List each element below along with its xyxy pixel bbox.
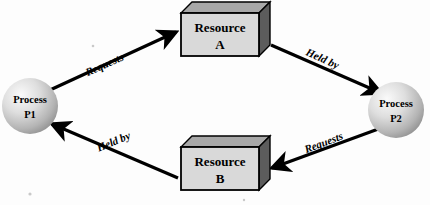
node-resource-a[interactable]: Resource A xyxy=(181,2,270,56)
process-p1-sphere xyxy=(2,78,58,134)
process-p1-label-line2: P1 xyxy=(24,109,36,120)
speck xyxy=(92,45,95,48)
edge-p2-requests-resource-b[interactable]: Requests xyxy=(272,128,381,168)
node-resource-b[interactable]: Resource B xyxy=(181,136,270,190)
resource-b-label-line1: Resource xyxy=(194,154,245,169)
edge-resource-a-heldby-p2[interactable]: Held by xyxy=(271,45,381,93)
resource-b-top-face xyxy=(181,136,270,147)
edge-line xyxy=(52,124,178,178)
resource-b-label-line2: B xyxy=(216,171,225,186)
edge-p1-requests-resource-a[interactable]: Requests xyxy=(50,32,176,90)
process-p1-label-line1: Process xyxy=(13,94,47,105)
deadlock-diagram-canvas: Requests Held by Requests Held by Resour… xyxy=(0,0,430,205)
speck xyxy=(28,192,31,195)
node-process-p1[interactable]: Process P1 xyxy=(2,78,58,134)
process-p2-sphere xyxy=(368,82,424,138)
resource-a-label-line1: Resource xyxy=(194,20,245,35)
diagram-svg: Requests Held by Requests Held by Resour… xyxy=(0,0,430,205)
node-process-p2[interactable]: Process P2 xyxy=(368,82,424,138)
edge-resource-b-heldby-p1[interactable]: Held by xyxy=(52,124,178,178)
process-p2-label-line1: Process xyxy=(379,98,413,109)
speck xyxy=(243,199,245,201)
process-p2-label-line2: P2 xyxy=(390,113,402,124)
edge-label-requests-a: Requests xyxy=(83,51,126,79)
resource-a-label-line2: A xyxy=(215,37,225,52)
resource-a-top-face xyxy=(181,2,270,13)
edge-label-requests-b: Requests xyxy=(302,129,345,155)
edge-line xyxy=(271,45,381,93)
